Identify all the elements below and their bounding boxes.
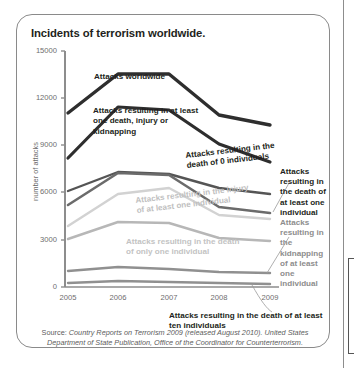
x-tick-2006: 2006 (102, 293, 134, 302)
series-death-at-least-ten (68, 281, 270, 284)
y-axis-title: number of attacks (31, 133, 40, 211)
annotation-death-of-only-one-individual: Attacks resulting in the death of only o… (126, 237, 244, 258)
x-tick-2009: 2009 (254, 293, 286, 302)
source-label: Source: (42, 328, 67, 337)
y-tick-9000: 9000 (23, 140, 57, 149)
annotation-attacks-worldwide: Attacks worldwide (94, 72, 165, 82)
x-tick-2007: 2007 (153, 293, 185, 302)
chart-card: Incidents of terrorism worldwide. (16, 14, 330, 348)
y-tick-12000: 12000 (23, 93, 57, 102)
annotation-death-of-at-least-one-individual: Attacks resulting in the death of at lea… (280, 167, 332, 218)
chart-plot-area: 15000 12000 9000 6000 3000 0 number of a… (17, 15, 331, 349)
y-tick-6000: 6000 (23, 187, 57, 196)
source-note: Source: Country Reports on Terrorism 200… (35, 328, 315, 347)
y-tick-15000: 15000 (23, 46, 57, 55)
y-tick-3000: 3000 (23, 235, 57, 244)
source-text: Country Reports on Terrorism 2009 (relea… (47, 328, 308, 347)
series-kidnapping-at-least-one (68, 267, 270, 273)
annotation-kidnapping-of-at-least-one-individual: Attacks resulting in the kidnapping of a… (280, 218, 332, 289)
y-tick-0: 0 (23, 282, 57, 291)
scrollbar-thumb[interactable] (348, 258, 354, 354)
right-edge-rule (343, 0, 344, 368)
x-tick-2005: 2005 (52, 293, 84, 302)
annotation-at-least-one-death-injury-kidnapping: Attacks resulting in at least one death,… (93, 106, 203, 137)
x-tick-2008: 2008 (203, 293, 235, 302)
